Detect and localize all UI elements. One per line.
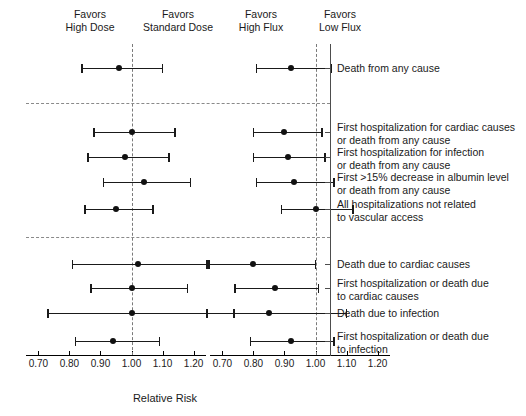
x-tick-label-flux-3: 1.00 (306, 358, 325, 369)
point-estimate-dose-4 (113, 206, 119, 212)
label-stub-6 (325, 288, 331, 289)
header-line-2: Low Flux (280, 21, 400, 34)
ci-cap-dose-4-high (152, 205, 154, 214)
ci-cap-dose-8-high (159, 337, 161, 346)
point-estimate-flux-5 (250, 261, 256, 267)
x-tick-dose-4 (163, 351, 164, 356)
label-stub-4 (325, 209, 331, 210)
x-tick-label-dose-0: 0.70 (29, 358, 48, 369)
confidence-interval-flux-0 (257, 68, 331, 69)
outcome-label-6: First hospitalization or death dueto car… (337, 277, 489, 302)
outcome-label-8: First hospitalization or death dueto inf… (337, 330, 489, 355)
confidence-interval-flux-1 (253, 132, 321, 133)
x-tick-dose-2 (100, 351, 101, 356)
outcome-label-line: to infection (337, 343, 489, 356)
ci-cap-dose-8-low (75, 337, 77, 346)
confidence-interval-dose-3 (104, 182, 191, 183)
label-stub-0 (325, 68, 331, 69)
ci-cap-flux-7-low (206, 309, 208, 318)
ci-cap-flux-8-low (250, 337, 252, 346)
x-axis-line-flux (210, 355, 390, 356)
point-estimate-dose-2 (122, 154, 128, 160)
ci-cap-dose-5-low (72, 260, 74, 269)
label-connector-bar (330, 44, 331, 356)
ci-cap-dose-1-high (174, 128, 176, 137)
ci-cap-flux-3-low (256, 178, 258, 187)
outcome-label-line: First >15% decrease in albumin level (337, 171, 509, 184)
confidence-interval-flux-5 (207, 264, 316, 265)
ci-cap-dose-6-high (187, 284, 189, 293)
label-stub-1 (325, 132, 331, 133)
confidence-interval-dose-5 (73, 264, 210, 265)
label-stub-5 (325, 264, 331, 265)
panel-dose: 0.700.800.901.001.101.20 (26, 44, 206, 356)
group-separator-0 (26, 103, 330, 104)
point-estimate-dose-5 (135, 261, 141, 267)
x-tick-label-dose-5: 1.20 (184, 358, 203, 369)
forest-plot-figure: FavorsHigh DoseFavorsStandard DoseFavors… (0, 0, 526, 416)
ci-cap-dose-7-low (47, 309, 49, 318)
x-axis-title: Relative Risk (0, 392, 330, 404)
x-tick-label-flux-2: 0.90 (275, 358, 294, 369)
reference-line-flux (316, 44, 317, 355)
ci-cap-dose-3-high (190, 178, 192, 187)
group-separator-1 (26, 237, 330, 238)
header-line-1: Favors (280, 8, 400, 21)
x-tick-flux-0 (222, 351, 223, 356)
point-estimate-dose-0 (116, 65, 122, 71)
point-estimate-flux-8 (288, 338, 294, 344)
ci-cap-flux-1-high (321, 128, 323, 137)
reference-line-dose (132, 44, 133, 355)
point-estimate-flux-0 (288, 65, 294, 71)
x-tick-dose-5 (194, 351, 195, 356)
outcome-label-line: Death from any cause (337, 62, 440, 75)
x-axis-line-dose (26, 355, 206, 356)
outcome-label-7: Death due to infection (337, 307, 439, 320)
outcome-label-line: First hospitalization or death due (337, 330, 489, 343)
outcome-label-line: or death from any cause (337, 159, 484, 172)
x-tick-label-dose-2: 0.90 (91, 358, 110, 369)
point-estimate-dose-1 (129, 129, 135, 135)
outcome-label-line: Death due to infection (337, 307, 439, 320)
ci-cap-dose-1-low (93, 128, 95, 137)
confidence-interval-dose-0 (82, 68, 163, 69)
ci-cap-flux-4-low (281, 205, 283, 214)
outcome-label-line: First hospitalization for cardiac causes (337, 121, 515, 134)
ci-cap-flux-0-low (256, 64, 258, 73)
confidence-interval-dose-4 (85, 209, 153, 210)
outcome-label-line: to vascular access (337, 211, 476, 224)
point-estimate-dose-6 (129, 285, 135, 291)
x-tick-dose-0 (38, 351, 39, 356)
confidence-interval-dose-1 (94, 132, 175, 133)
point-estimate-dose-8 (110, 338, 116, 344)
label-stub-2 (325, 157, 331, 158)
outcome-label-5: Death due to cardiac causes (337, 258, 470, 271)
ci-cap-dose-6-low (90, 284, 92, 293)
outcome-label-line: to cardiac causes (337, 290, 489, 303)
outcome-label-3: First >15% decrease in albumin levelor d… (337, 171, 509, 196)
outcome-label-line: First hospitalization or death due (337, 277, 489, 290)
point-estimate-dose-3 (141, 179, 147, 185)
label-stub-7 (325, 313, 331, 314)
ci-cap-dose-0-high (162, 64, 164, 73)
outcome-label-line: or death from any cause (337, 134, 515, 147)
x-tick-flux-2 (284, 351, 285, 356)
x-tick-label-flux-0: 0.70 (213, 358, 232, 369)
x-tick-label-dose-4: 1.10 (153, 358, 172, 369)
x-tick-dose-1 (69, 351, 70, 356)
point-estimate-flux-7 (266, 310, 272, 316)
point-estimate-dose-7 (129, 310, 135, 316)
point-estimate-flux-2 (285, 154, 291, 160)
outcome-label-0: Death from any cause (337, 62, 440, 75)
x-tick-label-flux-4: 1.10 (337, 358, 356, 369)
ci-cap-flux-2-low (253, 153, 255, 162)
outcome-label-1: First hospitalization for cardiac causes… (337, 121, 515, 146)
panel-header-3: FavorsLow Flux (280, 8, 400, 33)
ci-cap-flux-6-low (234, 284, 236, 293)
outcome-label-2: First hospitalization for infectionor de… (337, 146, 484, 171)
ci-cap-flux-5-high (315, 260, 317, 269)
ci-cap-dose-4-low (84, 205, 86, 214)
ci-cap-flux-3-high (333, 178, 335, 187)
outcome-label-4: All hospitalizations not relatedto vascu… (337, 198, 476, 223)
ci-cap-flux-8-high (333, 337, 335, 346)
